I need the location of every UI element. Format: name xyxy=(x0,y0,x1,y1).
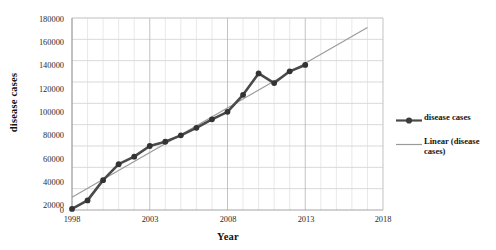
data-point xyxy=(131,154,137,160)
line-chart: disease cases Year 180000 160000 140000 … xyxy=(0,0,496,250)
data-point xyxy=(287,68,293,74)
data-point xyxy=(209,116,215,122)
data-point xyxy=(100,177,106,183)
data-point xyxy=(225,109,231,115)
legend-label-linear-trendline: Linear (disease cases) xyxy=(424,136,496,156)
data-point xyxy=(256,71,262,77)
legend-item-linear-trendline: Linear (disease cases) xyxy=(396,136,496,156)
data-point xyxy=(147,143,153,149)
data-point xyxy=(194,125,200,131)
data-point xyxy=(69,206,75,212)
data-point xyxy=(271,80,277,86)
legend-item-disease-cases: disease cases xyxy=(396,112,496,123)
data-point xyxy=(240,92,246,98)
legend-label-disease-cases: disease cases xyxy=(424,112,471,122)
chart-legend: disease cases Linear (disease cases) xyxy=(396,112,496,169)
data-point xyxy=(116,161,122,167)
trendline-path xyxy=(72,28,367,198)
line-marker-swatch-icon xyxy=(396,112,422,123)
data-point xyxy=(178,132,184,138)
series-markers xyxy=(69,62,308,212)
data-point xyxy=(162,139,168,145)
series-line-path xyxy=(72,65,305,209)
thin-line-swatch-icon xyxy=(396,136,422,147)
data-point xyxy=(85,198,91,204)
data-point xyxy=(302,62,308,68)
